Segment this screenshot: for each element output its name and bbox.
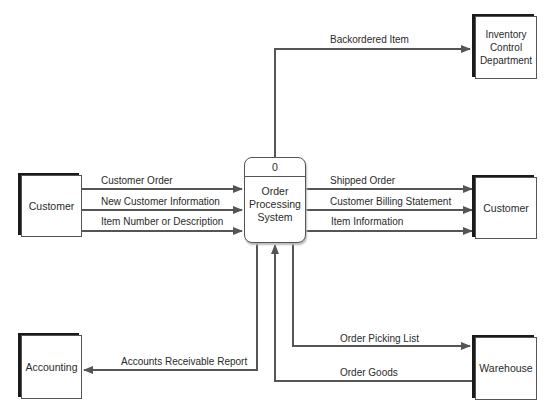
flow-label-accounts-receivable: Accounts Receivable Report <box>121 356 247 368</box>
entity-inventory-control[interactable]: Inventory Control Department <box>475 16 537 79</box>
entity-customer-source[interactable]: Customer <box>21 175 82 237</box>
entity-warehouse[interactable]: Warehouse <box>475 337 537 400</box>
process-id: 0 <box>245 158 305 177</box>
flow-label-new-customer-info: New Customer Information <box>101 196 220 208</box>
flow-label-order-picking-list: Order Picking List <box>340 333 419 345</box>
flow-label-item-information: Item Information <box>331 216 403 228</box>
flow-label-backordered-item: Backordered Item <box>330 34 409 46</box>
flow-label-item-number: Item Number or Description <box>101 216 223 228</box>
flow-label-customer-order: Customer Order <box>101 175 173 187</box>
flow-label-order-goods: Order Goods <box>340 367 398 379</box>
entity-accounting[interactable]: Accounting <box>21 335 82 399</box>
flow-label-billing-statement: Customer Billing Statement <box>330 196 451 208</box>
process-order-processing[interactable]: 0 Order Processing System <box>244 157 306 243</box>
entity-customer-sink[interactable]: Customer <box>475 177 537 239</box>
flow-label-shipped-order: Shipped Order <box>330 175 395 187</box>
process-name: Order Processing System <box>245 177 305 224</box>
